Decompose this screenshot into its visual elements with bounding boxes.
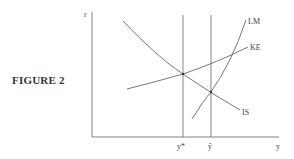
lm-label: LM [248,17,260,26]
y-hat-label: ŷ [208,142,212,151]
x-axis-label: y [276,142,280,151]
equilibrium-point-y-hat [210,91,212,93]
is-curve [123,21,240,110]
equilibrium-point-y-star [182,73,184,75]
is-label: IS [242,108,249,117]
ke-curve [127,47,248,89]
y-star-label: y* [177,142,185,151]
islm-diagram: r y LM KE IS y* ŷ [0,0,294,159]
y-axis-label: r [84,10,87,19]
lm-curve [192,20,246,119]
ke-label: KE [250,43,261,52]
